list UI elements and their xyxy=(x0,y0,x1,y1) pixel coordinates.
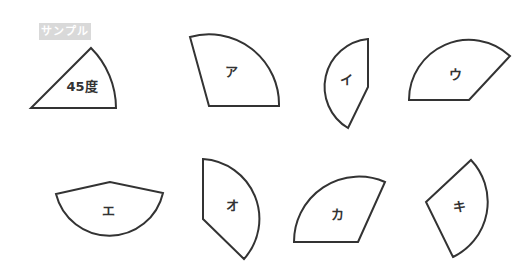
sector-e: エ xyxy=(56,182,163,236)
sector-i: イ xyxy=(325,39,368,128)
sector-a: ア xyxy=(190,34,279,106)
sector-o: オ xyxy=(203,159,259,259)
sector-i-label: イ xyxy=(340,72,353,87)
sector-ki: キ xyxy=(426,160,488,257)
sectors-diagram: 45度 ア イ ウ エ オ カ キ xyxy=(0,0,532,270)
sector-a-label: ア xyxy=(225,64,238,79)
sector-u-label: ウ xyxy=(449,67,462,82)
sector-e-label: エ xyxy=(102,203,115,218)
sample-label: 45度 xyxy=(66,79,98,94)
sector-ka: カ xyxy=(294,177,385,242)
sector-ka-label: カ xyxy=(331,207,344,222)
sector-u: ウ xyxy=(409,40,510,100)
sample-sector: 45度 xyxy=(31,48,116,108)
sector-o-label: オ xyxy=(226,198,239,213)
sector-ki-label: キ xyxy=(453,199,466,214)
